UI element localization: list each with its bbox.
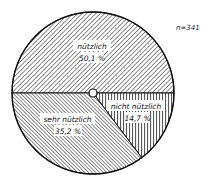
label-nuetzlich: nützlich (77, 42, 107, 51)
label-nicht-nuetzlich: nicht nützlich (111, 102, 162, 111)
pct-nicht-nuetzlich: 14,7 % (124, 114, 150, 123)
center-hub (89, 89, 97, 97)
sample-size-label: n=341 (176, 24, 200, 32)
pct-nuetzlich: 50,1 % (79, 54, 105, 63)
pct-sehr-nuetzlich: 35,2 % (55, 127, 81, 136)
label-sehr-nuetzlich: sehr nützlich (43, 115, 91, 124)
